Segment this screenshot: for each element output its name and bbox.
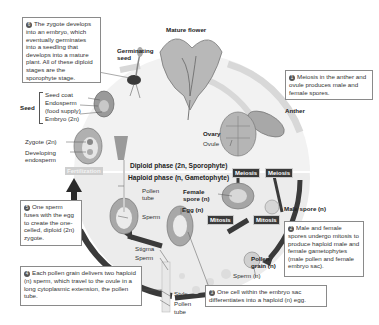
label-pollen-grain-2: grain (n) — [251, 262, 276, 269]
label-sperm-bottom: Sperm — [135, 254, 153, 261]
label-pollen-tube-top-2: tube — [142, 194, 154, 201]
label-mature-flower: Mature flower — [166, 26, 206, 33]
step-6-box: 6The zygote develops into an embryo, whi… — [22, 17, 101, 83]
label-embryo: Embryo (2n) — [45, 115, 79, 122]
seed-bracket — [39, 92, 43, 124]
step-4-text: Each pollen grain delivers two haploid (… — [24, 269, 136, 299]
meiosis-male-tag: Meiosis — [265, 168, 293, 178]
step-3-box: 3One cell within the embryo sac differen… — [205, 285, 327, 307]
haploid-phase-label: Haploid phase (n, Gametophyte) — [128, 174, 229, 181]
step-1-text: Meiosis in the anther and ovule produces… — [289, 73, 366, 96]
style-illustration — [162, 262, 170, 312]
mitosis-male-tag: Mitosis — [253, 215, 280, 225]
step-5-text: One sperm fuses with the egg to create t… — [24, 203, 74, 241]
label-sperm-n: Sperm (n) — [233, 272, 261, 279]
label-ovary: Ovary — [203, 130, 221, 137]
step-1-box: 1Meiosis in the anther and ovule produce… — [285, 70, 373, 100]
step-2-text: Male and female spores undergo mitosis t… — [288, 224, 359, 269]
meiosis-female-tag: Meiosis — [232, 168, 260, 178]
label-seed-coat: Seed coat — [45, 91, 73, 98]
label-seed: Seed — [20, 104, 35, 111]
label-endosperm: Endosperm — [45, 99, 77, 106]
step-4-box: 4Each pollen grain delivers two haploid … — [20, 266, 142, 306]
label-style: Style — [174, 290, 188, 297]
label-food-supply: (food supply) — [45, 107, 81, 114]
label-ovule: Ovule — [203, 140, 219, 147]
diploid-phase-label: Diploid phase (2n, Sporophyte) — [130, 162, 227, 169]
step-3-text: One cell within the embryo sac different… — [209, 288, 306, 303]
label-sperm-mid: Sperm — [142, 213, 160, 220]
mitosis-female-tag: Mitosis — [207, 215, 234, 225]
step-6-text: The zygote develops into an embryo, whic… — [26, 20, 93, 81]
fertilization-tag: Fertilization — [65, 167, 103, 175]
step-2-box: 2Male and female spores undergo mitosis … — [284, 221, 364, 277]
label-pollen-tube-bottom-1: Pollen — [174, 300, 191, 307]
label-stigma: Stigma — [135, 245, 154, 252]
label-female-spore-2: spore (n) — [183, 195, 209, 202]
label-anther: Anther — [285, 107, 305, 114]
label-male-spore: Male spore (n) — [284, 205, 326, 212]
label-endosperm-2: endosperm — [25, 156, 56, 163]
male-spore-illustration — [265, 200, 279, 214]
label-egg: Egg (n) — [182, 206, 203, 213]
step-5-box: 5One sperm fuses with the egg to create … — [20, 200, 82, 246]
label-pollen-tube-bottom-2: tube — [174, 308, 186, 315]
label-zygote: Zygote (2n) — [25, 138, 57, 145]
label-germinating-seed-2: seed — [117, 54, 131, 61]
